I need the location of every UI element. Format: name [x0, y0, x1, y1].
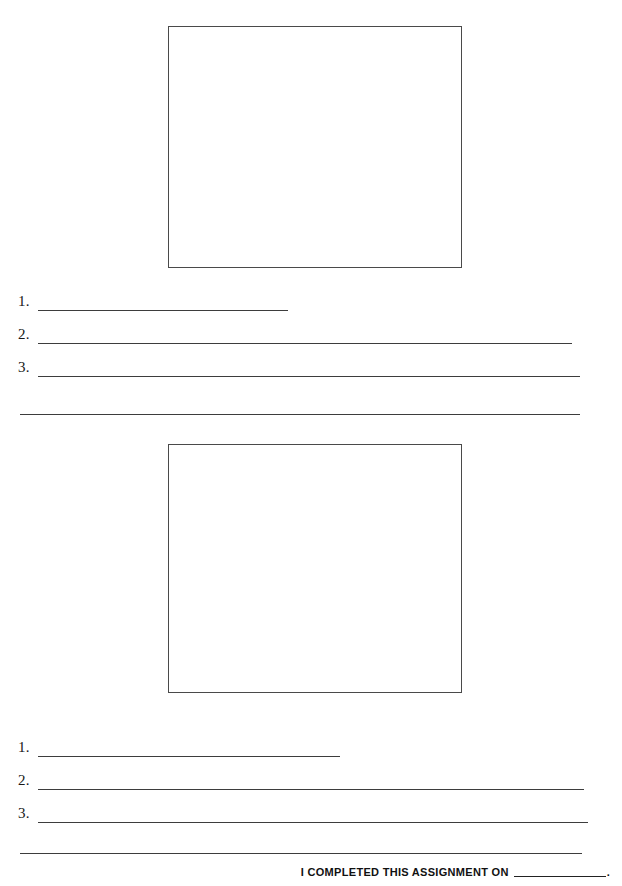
drawing-area-1[interactable] — [168, 26, 462, 268]
continuation-write-line-1[interactable] — [20, 414, 580, 415]
completion-date-blank[interactable] — [514, 876, 606, 877]
continuation-write-line-2[interactable] — [20, 853, 582, 854]
answer-row: 1. — [0, 292, 622, 325]
answer-row: 3. — [0, 358, 622, 391]
answer-row: 1. — [0, 738, 622, 771]
answer-number-label: 3. — [18, 804, 30, 822]
drawing-area-2[interactable] — [168, 444, 462, 693]
answer-number-label: 1. — [18, 292, 30, 310]
answer-write-line-1[interactable] — [38, 310, 288, 311]
answer-write-line-2[interactable] — [38, 789, 584, 790]
completion-statement: I COMPLETED THIS ASSIGNMENT ON. — [0, 866, 622, 886]
answer-line-group-2: 1. 2. 3. — [0, 738, 622, 837]
answer-row: 3. — [0, 804, 622, 837]
answer-row: 2. — [0, 771, 622, 804]
answer-number-label: 2. — [18, 771, 30, 789]
answer-number-label: 1. — [18, 738, 30, 756]
completion-label: I COMPLETED THIS ASSIGNMENT ON — [301, 866, 509, 878]
answer-write-line-3[interactable] — [38, 376, 580, 377]
completion-period: . — [607, 866, 610, 878]
answer-write-line-3[interactable] — [38, 822, 588, 823]
answer-row: 2. — [0, 325, 622, 358]
answer-number-label: 3. — [18, 358, 30, 376]
answer-line-group-1: 1. 2. 3. — [0, 292, 622, 391]
answer-write-line-2[interactable] — [38, 343, 572, 344]
worksheet-page: 1. 2. 3. 1. 2. 3. I COMPLETED TH — [0, 0, 622, 886]
answer-write-line-1[interactable] — [38, 756, 340, 757]
answer-number-label: 2. — [18, 325, 30, 343]
